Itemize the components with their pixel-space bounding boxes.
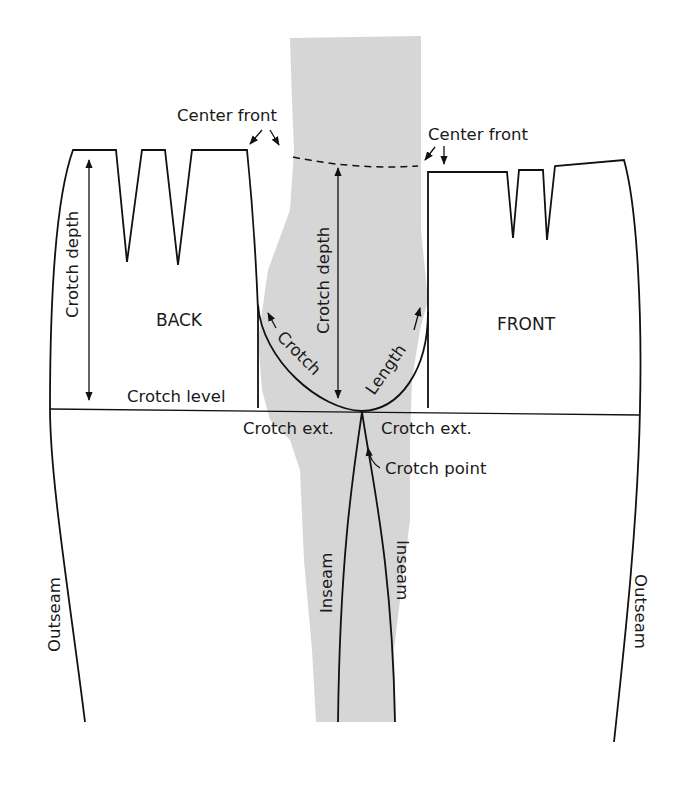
center-front-label-left: Center front (177, 106, 278, 125)
inseam-label-right: Inseam (393, 540, 412, 600)
center-front-arrow-left-a (250, 130, 262, 144)
inseam-label-left: Inseam (317, 553, 336, 613)
shaded-leg-area (258, 36, 428, 722)
center-front-arrow-right-a (425, 147, 435, 160)
crotch-ext-label-left: Crotch ext. (243, 419, 334, 438)
crotch-depth-label-left: Crotch depth (63, 211, 82, 318)
outseam-label-left: Outseam (45, 577, 64, 652)
crotch-level-label: Crotch level (127, 387, 226, 406)
crotch-point-label: Crotch point (385, 459, 487, 478)
crotch-depth-label-center: Crotch depth (314, 227, 333, 334)
front-label: FRONT (497, 314, 556, 334)
center-front-label-right: Center front (428, 125, 529, 144)
crotch-ext-label-right: Crotch ext. (381, 419, 472, 438)
pants-pattern-diagram: Center front Center front BACK FRONT Cro… (0, 0, 687, 792)
outseam-label-right: Outseam (631, 574, 650, 649)
front-piece-outline (428, 160, 640, 742)
back-label: BACK (156, 310, 203, 330)
center-front-arrow-left-b (270, 130, 279, 145)
